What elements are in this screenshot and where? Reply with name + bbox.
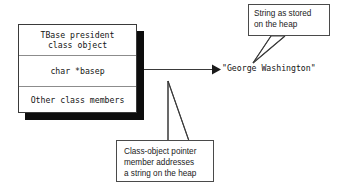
object-memory-diagram: "George Washington" --> TBase president …	[0, 0, 341, 190]
callout-tail-pointer	[168, 81, 189, 141]
class-object-box: TBase president class object char *basep…	[18, 24, 137, 113]
class-box-row-header: TBase president class object	[19, 25, 136, 56]
callout-heap-string-text: String as stored on the heap	[254, 9, 329, 30]
arrowhead-icon	[212, 65, 221, 75]
class-box-header-label: TBase president class object	[41, 30, 115, 51]
class-box-row-pointer-member: char *basep	[19, 56, 136, 87]
class-box-row-other-members: Other class members	[19, 87, 136, 113]
callout-heap-string: String as stored on the heap	[248, 4, 330, 36]
other-members-label: Other class members	[31, 95, 125, 106]
pointer-member-label: char *basep	[50, 66, 104, 77]
callout-pointer-member-text: Class-object pointer member addresses a …	[124, 146, 213, 180]
callout-tail-heap	[253, 36, 285, 63]
heap-string-literal: "George Washington"	[222, 63, 316, 74]
callout-pointer-member: Class-object pointer member addresses a …	[116, 140, 214, 182]
